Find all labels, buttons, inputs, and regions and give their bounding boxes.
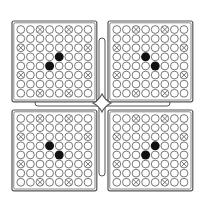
empty-cell	[84, 26, 92, 34]
marked-cell-icon	[65, 178, 73, 186]
empty-cell	[151, 53, 159, 61]
empty-cell	[17, 151, 25, 159]
empty-cell	[84, 35, 92, 43]
empty-cell	[180, 151, 188, 159]
empty-cell	[84, 80, 92, 88]
empty-cell	[75, 89, 83, 97]
empty-cell	[142, 44, 150, 52]
empty-cell	[113, 178, 121, 186]
empty-cell	[142, 80, 150, 88]
empty-cell	[113, 53, 121, 61]
empty-cell	[75, 115, 83, 123]
filled-cell	[45, 141, 54, 150]
empty-cell	[46, 71, 54, 79]
empty-cell	[65, 53, 73, 61]
empty-cell	[151, 124, 159, 132]
empty-cell	[142, 178, 150, 186]
empty-cell	[171, 62, 179, 70]
panel-bottom-left	[12, 110, 97, 191]
marked-cell-icon	[180, 44, 188, 52]
empty-cell	[75, 26, 83, 34]
empty-cell	[161, 71, 169, 79]
marked-cell-icon	[161, 115, 169, 123]
marked-cell-icon	[17, 71, 25, 79]
empty-cell	[151, 133, 159, 141]
empty-cell	[27, 169, 35, 177]
empty-cell	[65, 71, 73, 79]
marked-cell-icon	[161, 26, 169, 34]
empty-cell	[142, 115, 150, 123]
empty-cell	[151, 151, 159, 159]
empty-cell	[123, 62, 131, 70]
empty-cell	[36, 169, 44, 177]
empty-cell	[84, 115, 92, 123]
empty-cell	[123, 53, 131, 61]
empty-cell	[171, 124, 179, 132]
empty-cell	[180, 178, 188, 186]
empty-cell	[171, 115, 179, 123]
empty-cell	[161, 124, 169, 132]
empty-cell	[27, 71, 35, 79]
marked-cell-icon	[132, 178, 140, 186]
empty-cell	[142, 169, 150, 177]
empty-cell	[55, 89, 63, 97]
empty-cell	[123, 124, 131, 132]
empty-cell	[132, 44, 140, 52]
empty-cell	[132, 71, 140, 79]
marked-cell-icon	[17, 160, 25, 168]
empty-cell	[161, 53, 169, 61]
empty-cell	[171, 44, 179, 52]
empty-cell	[36, 133, 44, 141]
empty-cell	[180, 115, 188, 123]
empty-cell	[113, 26, 121, 34]
panel-top-left	[12, 21, 97, 102]
empty-cell	[27, 44, 35, 52]
empty-cell	[151, 160, 159, 168]
empty-cell	[36, 160, 44, 168]
empty-cell	[113, 115, 121, 123]
empty-cell	[123, 142, 131, 150]
empty-cell	[171, 151, 179, 159]
empty-cell	[75, 142, 83, 150]
empty-cell	[75, 71, 83, 79]
empty-cell	[171, 178, 179, 186]
empty-cell	[161, 62, 169, 70]
empty-cell	[75, 178, 83, 186]
empty-cell	[27, 151, 35, 159]
empty-cell	[27, 62, 35, 70]
empty-cell	[113, 151, 121, 159]
marked-cell-icon	[132, 89, 140, 97]
empty-cell	[142, 124, 150, 132]
empty-cell	[75, 53, 83, 61]
empty-cell	[113, 89, 121, 97]
empty-cell	[180, 35, 188, 43]
empty-cell	[142, 71, 150, 79]
marked-cell-icon	[17, 44, 25, 52]
empty-cell	[46, 35, 54, 43]
empty-cell	[132, 53, 140, 61]
empty-cell	[180, 53, 188, 61]
grid-panels-diagram	[0, 0, 205, 202]
empty-cell	[17, 89, 25, 97]
empty-cell	[113, 124, 121, 132]
empty-cell	[123, 178, 131, 186]
empty-cell	[132, 142, 140, 150]
marked-cell-icon	[36, 89, 44, 97]
empty-cell	[46, 89, 54, 97]
empty-cell	[171, 142, 179, 150]
empty-cell	[75, 160, 83, 168]
empty-cell	[46, 169, 54, 177]
empty-cell	[171, 89, 179, 97]
empty-cell	[123, 71, 131, 79]
empty-cell	[46, 178, 54, 186]
empty-cell	[151, 80, 159, 88]
empty-cell	[84, 142, 92, 150]
empty-cell	[65, 80, 73, 88]
marked-cell-icon	[65, 26, 73, 34]
empty-cell	[171, 133, 179, 141]
empty-cell	[55, 160, 63, 168]
empty-cell	[46, 115, 54, 123]
empty-cell	[123, 115, 131, 123]
empty-cell	[65, 160, 73, 168]
empty-cell	[65, 151, 73, 159]
